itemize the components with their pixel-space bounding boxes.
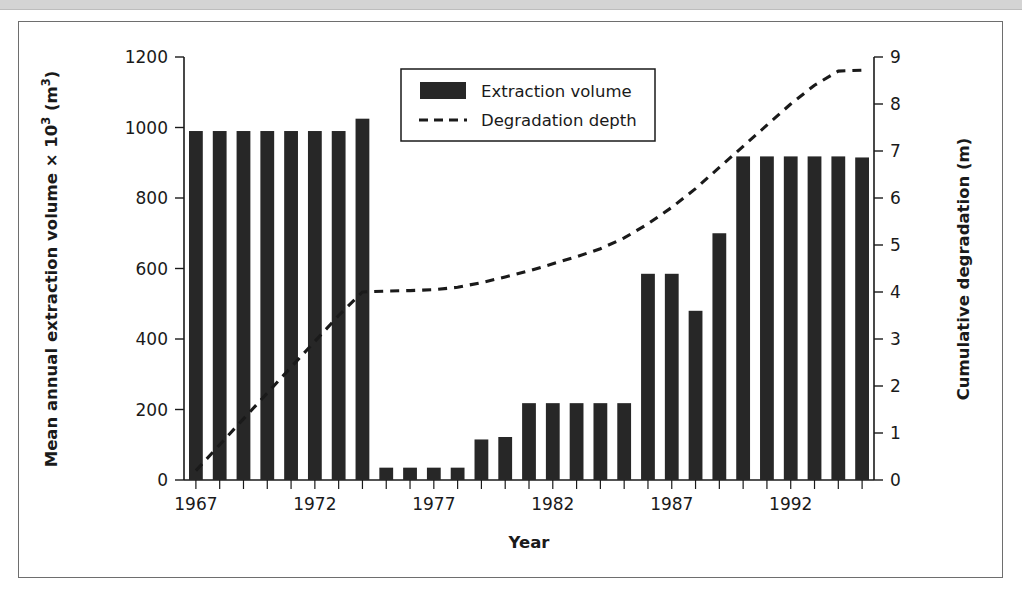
x-axis-tick-labels: 196719721977198219871992 [174,494,812,514]
bar [570,403,584,480]
left-tick-label: 200 [136,400,168,420]
y2-axis-title: Cumulative degradation (m) [954,138,973,401]
right-tick-label: 9 [890,47,901,67]
bar [451,468,465,480]
bar [237,131,251,480]
bar [189,131,203,480]
left-tick-label: 400 [136,329,168,349]
left-tick-label: 600 [136,259,168,279]
bar [475,439,489,480]
bar [641,274,655,480]
left-tick-label: 800 [136,188,168,208]
bar [831,156,845,480]
figure-frame: 020040060080010001200 0123456789 1967197… [18,21,1003,578]
right-tick-label: 3 [890,329,901,349]
left-tick-label: 0 [157,470,168,490]
bar [213,131,227,480]
left-axis-ticks: 020040060080010001200 [125,47,184,490]
right-tick-label: 2 [890,376,901,396]
x-tick-label: 1982 [531,494,574,514]
bar [260,131,274,480]
page-top-band [0,0,1022,10]
right-tick-label: 6 [890,188,901,208]
right-tick-label: 0 [890,470,901,490]
bar [546,403,560,480]
right-tick-label: 1 [890,423,901,443]
bar [284,131,298,480]
legend-swatch-extraction-volume [420,82,466,99]
legend-label-degradation-depth: Degradation depth [481,111,637,130]
right-tick-label: 4 [890,282,901,302]
bar [403,468,417,480]
left-tick-label: 1000 [125,118,168,138]
chart-area: 020040060080010001200 0123456789 1967197… [19,22,1004,579]
bar [593,403,607,480]
legend-label-extraction-volume: Extraction volume [481,82,632,101]
right-tick-label: 8 [890,94,901,114]
bar [379,468,393,480]
bar [427,468,441,480]
bar [617,403,631,480]
bar [855,157,869,480]
bar [736,156,750,480]
bar [689,311,703,480]
x-tick-label: 1972 [293,494,336,514]
left-tick-label: 1200 [125,47,168,67]
x-tick-label: 1992 [769,494,812,514]
right-tick-label: 5 [890,235,901,255]
bar [522,403,536,480]
bar [712,233,726,480]
bar [808,156,822,480]
legend-border [401,69,655,141]
chart-legend: Extraction volume Degradation depth [401,69,655,141]
right-axis-ticks: 0123456789 [874,47,901,490]
bar [784,156,798,480]
bar [308,131,322,480]
right-tick-label: 7 [890,141,901,161]
bar [498,437,512,480]
bar [665,274,679,480]
bar-series-extraction-volume [189,119,869,480]
bar [356,119,370,480]
x-axis-ticks [196,480,862,489]
y-axis-title: Mean annual extraction volume × 103 (m3) [39,71,61,468]
combo-chart: 020040060080010001200 0123456789 1967197… [19,22,1004,579]
bar [760,156,774,480]
x-axis-title: Year [508,533,551,552]
x-tick-label: 1967 [174,494,217,514]
figure-page: 020040060080010001200 0123456789 1967197… [0,0,1022,605]
x-tick-label: 1987 [650,494,693,514]
bar [332,131,346,480]
x-tick-label: 1977 [412,494,455,514]
